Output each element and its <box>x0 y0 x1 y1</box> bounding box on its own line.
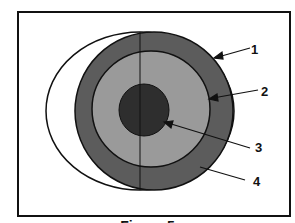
figure-caption: Figure 5 <box>0 219 295 223</box>
concentric-layers-diagram <box>0 0 295 223</box>
core-layer-3 <box>119 84 169 136</box>
label-2: 2 <box>261 85 268 98</box>
label-4: 4 <box>253 175 260 188</box>
label-1: 1 <box>251 43 258 56</box>
label-3: 3 <box>255 141 262 154</box>
